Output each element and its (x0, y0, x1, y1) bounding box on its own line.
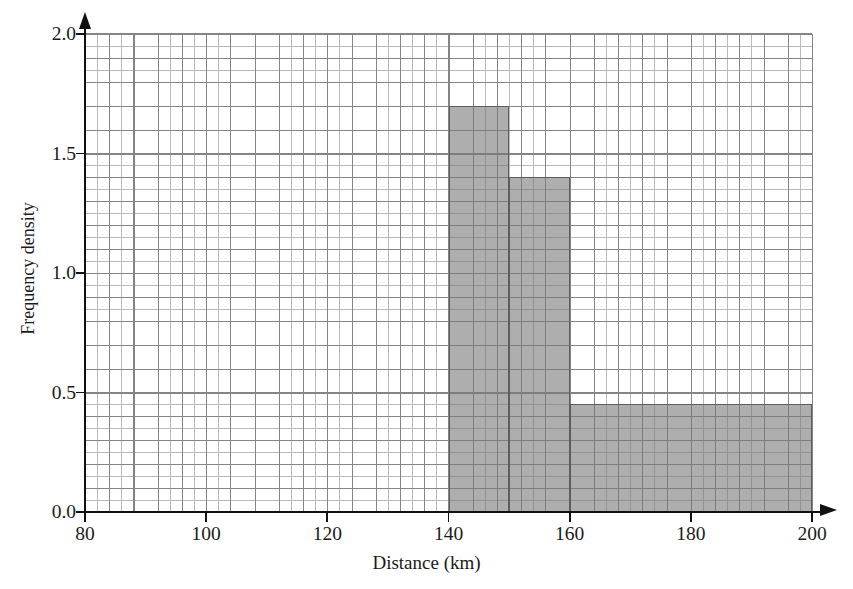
y-axis-tick-mark (76, 153, 85, 155)
x-axis-arrow-icon (820, 504, 837, 516)
histogram-bar (570, 404, 812, 512)
x-axis-title: Distance (km) (0, 552, 853, 574)
x-axis-line (84, 511, 826, 513)
x-axis-tick-label: 160 (530, 524, 610, 544)
grid-right-edge (812, 34, 813, 512)
x-axis-tick-label: 140 (409, 524, 489, 544)
x-axis-tick-label: 180 (651, 524, 731, 544)
y-axis-tick-mark (76, 272, 85, 274)
x-axis-tick-mark (448, 512, 450, 522)
grid-top-edge (85, 33, 812, 34)
x-axis-tick-mark (811, 512, 813, 522)
y-axis-arrow-icon (79, 12, 91, 29)
x-axis-tick-label: 200 (772, 524, 852, 544)
x-axis-tick-mark (205, 512, 207, 522)
x-axis-tick-label: 120 (287, 524, 367, 544)
y-axis-tick-mark (76, 392, 85, 394)
y-axis-tick-label: 0.0 (30, 502, 76, 522)
y-axis-tick-mark (76, 33, 85, 35)
x-axis-tick-mark (569, 512, 571, 522)
histogram-bar (449, 106, 510, 512)
x-axis-tick-mark (326, 512, 328, 522)
x-axis-tick-mark (84, 512, 86, 522)
x-axis-tick-mark (690, 512, 692, 522)
y-axis-line (84, 26, 86, 514)
histogram-bar (509, 177, 570, 512)
x-axis-tick-label: 100 (166, 524, 246, 544)
y-axis-tick-label: 2.0 (30, 24, 76, 44)
x-axis-tick-label: 80 (45, 524, 125, 544)
y-axis-title: Frequency density (18, 159, 39, 379)
histogram-figure: 0.00.51.01.52.0 80100120140160180200 Dis… (0, 0, 853, 589)
y-axis-tick-label: 0.5 (30, 383, 76, 403)
plot-area (85, 34, 812, 512)
